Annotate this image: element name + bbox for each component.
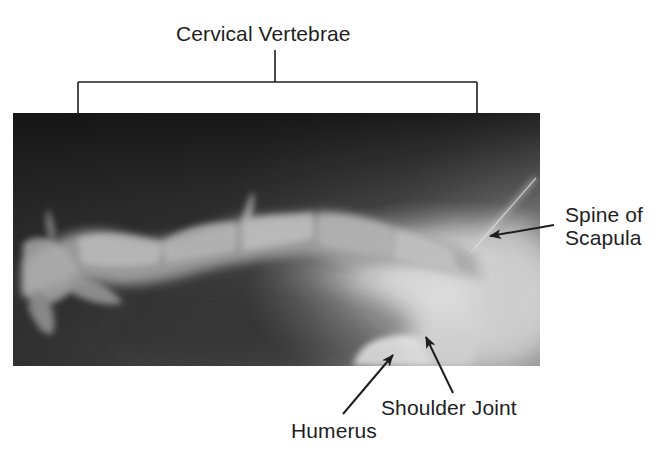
shoulder-joint-label: Shoulder Joint bbox=[381, 396, 517, 419]
annotated-radiograph-figure: Cervical Vertebrae Spine of Scapula Shou… bbox=[0, 0, 669, 453]
cervical-vertebrae-label: Cervical Vertebrae bbox=[176, 22, 351, 45]
humerus-label: Humerus bbox=[291, 419, 377, 442]
spine-of-scapula-label: Spine of Scapula bbox=[565, 203, 643, 249]
cervical-xray-image bbox=[13, 113, 540, 366]
cervical-vertebrae-bracket bbox=[78, 50, 477, 114]
spine-of-scapula-label-line2: Scapula bbox=[565, 226, 643, 249]
spine-of-scapula-label-line1: Spine of bbox=[565, 203, 643, 226]
